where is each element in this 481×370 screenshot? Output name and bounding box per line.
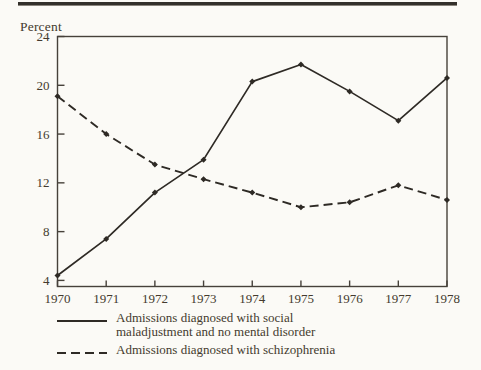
x-tick-label: 1974 [239,291,266,306]
data-point-marker [249,190,255,196]
y-tick-label: 8 [43,224,50,239]
x-tick-label: 1977 [385,291,412,306]
legend-item-schizophrenia: Admissions diagnosed with schizophrenia [57,343,335,359]
x-tick-label: 1970 [45,291,71,306]
data-point-marker [298,204,304,210]
x-tick-label: 1973 [191,291,217,306]
legend-label-line1: Admissions diagnosed with social [116,311,315,325]
x-tick-label: 1971 [93,291,119,306]
data-point-marker [444,197,450,203]
legend-item-social-maladjustment: Admissions diagnosed with social maladju… [57,311,315,338]
y-tick-label: 16 [37,127,51,142]
y-tick-label: 12 [37,175,50,190]
legend-label-schizophrenia: Admissions diagnosed with schizophrenia [116,343,335,357]
x-tick-label: 1976 [337,291,364,306]
data-point-marker [201,176,207,182]
x-tick-label: 1975 [288,291,314,306]
data-point-marker [395,182,401,188]
legend-label-line2: maladjustment and no mental disorder [116,325,315,339]
legend-label-social-maladjustment: Admissions diagnosed with social maladju… [116,311,315,338]
x-tick-label: 1972 [142,291,168,306]
top-rule [18,2,457,6]
figure: Percent 48121620241970197119721973197419… [0,0,481,370]
dashed-line-swatch [57,343,107,359]
x-tick-label: 1978 [434,291,460,306]
line-chart: 4812162024197019711972197319741975197619… [0,0,481,310]
solid-line-swatch [57,311,107,327]
data-point-marker [347,199,353,205]
legend-label-line1: Admissions diagnosed with schizophrenia [116,343,335,357]
series-social-maladjustment-line [58,65,448,276]
y-tick-label: 20 [37,78,50,93]
y-axis-title: Percent [20,19,62,35]
y-tick-label: 4 [43,273,50,288]
plot-frame [58,37,448,287]
